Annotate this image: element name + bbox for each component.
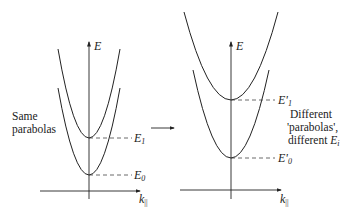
left-caption-line1: Same [12, 110, 38, 122]
right-e0-label: E'0 [277, 151, 292, 166]
right-k-axis-label: k|| [280, 192, 289, 207]
right-caption-line1: Different [290, 108, 333, 120]
right-panel: E E'1 E'0 k|| Different 'parabolas', dif… [180, 12, 340, 207]
left-caption-line2: parabolas [12, 123, 57, 136]
band-diagram: E E1 E0 k|| Same parabolas E E'1 E'0 k||… [0, 0, 348, 212]
right-caption-line3: different Ei [288, 134, 340, 148]
left-panel: E E1 E0 k|| Same parabolas [12, 39, 148, 207]
right-caption-line2: 'parabolas', [287, 121, 338, 134]
left-e1-label: E1 [133, 131, 145, 146]
left-e0-label: E0 [133, 168, 145, 183]
left-e-axis-label: E [93, 39, 102, 53]
right-e-axis-label: E [235, 39, 244, 53]
right-e1-label: E'1 [277, 93, 292, 108]
left-k-axis-label: k|| [139, 192, 148, 207]
